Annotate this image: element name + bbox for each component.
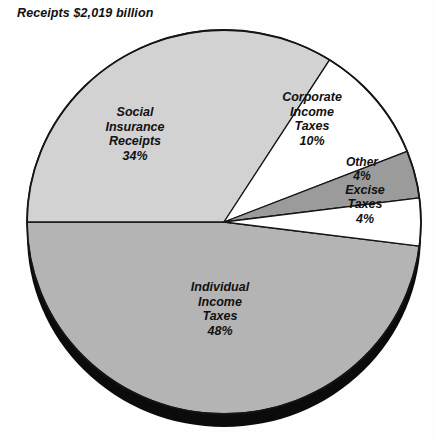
chart-page: Receipts $2,019 billion IndividualIncome… <box>0 0 436 444</box>
pie-chart: IndividualIncomeTaxes48%SocialInsuranceR… <box>0 0 436 444</box>
